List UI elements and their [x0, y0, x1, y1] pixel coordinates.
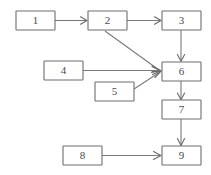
flowchart-diagram: 1 2 3 4 5 6: [0, 0, 211, 175]
edge-2-to-6-line: [105, 31, 159, 70]
node-8[interactable]: 8: [63, 146, 102, 165]
edge-4-to-6: [83, 66, 161, 74]
edge-5-to-6-line: [134, 72, 160, 89]
node-1[interactable]: 1: [16, 11, 55, 30]
node-7-label: 7: [179, 103, 185, 115]
node-7[interactable]: 7: [162, 100, 201, 119]
edge-8-to-9: [102, 152, 161, 160]
edge-3-to-6: [177, 30, 184, 61]
node-9-label: 9: [179, 149, 185, 161]
node-6[interactable]: 6: [162, 62, 201, 81]
node-4[interactable]: 4: [44, 61, 83, 80]
node-5[interactable]: 5: [95, 82, 134, 101]
edge-6-to-7: [177, 81, 184, 100]
node-3[interactable]: 3: [162, 11, 201, 30]
node-6-label: 6: [179, 65, 185, 77]
node-8-label: 8: [80, 149, 86, 161]
flowchart-canvas: 1 2 3 4 5 6: [0, 0, 211, 175]
node-4-label: 4: [61, 64, 67, 76]
edge-5-to-6: [134, 71, 161, 89]
edge-1-to-2: [55, 17, 87, 24]
node-1-label: 1: [33, 14, 39, 26]
edge-7-to-9: [177, 119, 184, 146]
node-2-label: 2: [105, 14, 111, 26]
node-2[interactable]: 2: [88, 11, 127, 30]
node-9[interactable]: 9: [162, 146, 201, 165]
node-5-label: 5: [112, 85, 118, 97]
node-3-label: 3: [179, 14, 185, 26]
edge-2-to-3: [127, 17, 161, 24]
